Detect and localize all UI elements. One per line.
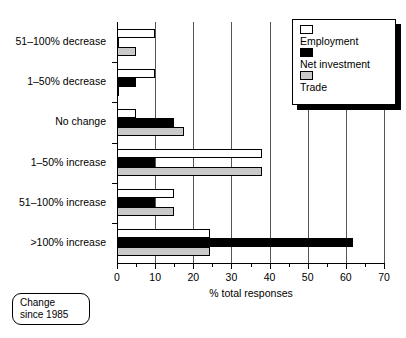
- bar-0-4: [117, 189, 174, 198]
- bar-0-5: [117, 229, 210, 238]
- x-tick-45: [289, 263, 290, 267]
- legend-label-1: Net investment: [300, 58, 395, 70]
- bar-2-2: [117, 127, 184, 136]
- x-tick-label-30: 30: [216, 271, 246, 283]
- x-axis-title: % total responses: [117, 287, 385, 299]
- gridline-40: [270, 22, 271, 263]
- bar-0-2: [117, 109, 136, 118]
- legend-label-2: Trade: [300, 81, 395, 93]
- x-tick-35: [251, 263, 252, 267]
- bar-2-1: [117, 87, 119, 96]
- x-tick-30: [231, 263, 232, 269]
- x-tick-label-0: 0: [102, 271, 132, 283]
- x-tick-label-50: 50: [293, 271, 323, 283]
- x-tick-label-20: 20: [178, 271, 208, 283]
- x-tick-10: [155, 263, 156, 269]
- x-tick-label-60: 60: [331, 271, 361, 283]
- legend-swatch-2: [300, 71, 313, 80]
- y-axis-label-2: No change: [55, 116, 106, 127]
- x-tick-20: [193, 263, 194, 269]
- y-axis-label-5: >100% increase: [30, 237, 106, 248]
- x-tick-label-10: 10: [140, 271, 170, 283]
- bar-2-0: [117, 47, 136, 56]
- x-tick-15: [174, 263, 175, 267]
- x-tick-40: [270, 263, 271, 269]
- legend-item-0: Employment: [300, 25, 395, 47]
- y-axis-label-1: 1–50% decrease: [27, 76, 106, 87]
- bar-chart: 51–100% decrease1–50% decreaseNo change1…: [0, 0, 406, 338]
- y-axis-category-labels: 51–100% decrease1–50% decreaseNo change1…: [0, 0, 112, 338]
- y-axis-label-3: 1–50% increase: [31, 157, 106, 168]
- y-axis-tick-2: [112, 102, 118, 103]
- x-tick-label-70: 70: [369, 271, 399, 283]
- note-line-2: since 1985: [20, 309, 83, 321]
- y-axis-label-4: 51–100% increase: [19, 197, 106, 208]
- x-tick-5: [136, 263, 137, 267]
- legend-label-0: Employment: [300, 35, 395, 47]
- bar-1-0: [117, 38, 119, 47]
- bar-2-3: [117, 167, 262, 176]
- x-tick-65: [365, 263, 366, 267]
- bar-1-1: [117, 78, 136, 87]
- x-tick-0: [117, 263, 118, 269]
- x-tick-60: [346, 263, 347, 269]
- legend-swatch-1: [300, 48, 313, 57]
- legend-item-2: Trade: [300, 71, 395, 93]
- x-tick-55: [327, 263, 328, 267]
- x-tick-25: [212, 263, 213, 267]
- bar-2-4: [117, 207, 174, 216]
- x-tick-label-40: 40: [255, 271, 285, 283]
- y-axis-tick-3: [112, 143, 118, 144]
- legend-item-1: Net investment: [300, 48, 395, 70]
- gridline-30: [231, 22, 232, 263]
- legend-swatch-0: [300, 25, 313, 34]
- bar-1-2: [117, 118, 174, 127]
- bar-2-5: [117, 247, 210, 256]
- chart-legend: EmploymentNet investmentTrade: [292, 19, 396, 105]
- bar-0-3: [117, 149, 262, 158]
- y-axis-tick-4: [112, 183, 118, 184]
- note-line-1: Change: [20, 297, 83, 309]
- x-tick-70: [384, 263, 385, 269]
- bar-1-4: [117, 198, 155, 207]
- gridline-10: [155, 22, 156, 263]
- y-axis-tick-1: [112, 62, 118, 63]
- note-box: Change since 1985: [12, 293, 90, 325]
- bar-0-0: [117, 29, 155, 38]
- bar-1-3: [117, 158, 155, 167]
- bar-1-5: [117, 238, 353, 247]
- gridline-20: [193, 22, 194, 263]
- bar-0-1: [117, 69, 155, 78]
- x-tick-50: [308, 263, 309, 269]
- y-axis-tick-5: [112, 223, 118, 224]
- y-axis-label-0: 51–100% decrease: [16, 36, 107, 47]
